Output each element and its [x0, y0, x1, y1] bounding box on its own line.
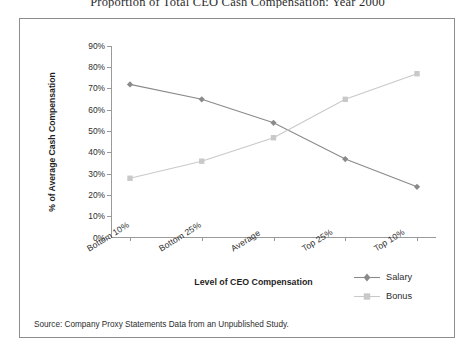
y-tick-label: 90%: [88, 41, 105, 52]
y-tick-label: 60%: [88, 105, 105, 116]
y-tick: 40%: [63, 147, 111, 158]
data-point-salary[interactable]: [127, 81, 133, 87]
data-point-salary[interactable]: [199, 96, 205, 102]
legend: Salary Bonus: [352, 268, 440, 306]
y-tick: 20%: [63, 190, 111, 201]
legend-swatch-bonus: [352, 287, 382, 306]
series-layer: [111, 46, 436, 238]
y-tick-label: 50%: [88, 126, 105, 137]
data-point-bonus[interactable]: [271, 135, 276, 140]
y-axis-title: % of Average Cash Compensation: [47, 58, 57, 226]
y-tick-label: 10%: [88, 211, 105, 222]
data-point-bonus[interactable]: [127, 176, 132, 181]
y-tick: 70%: [63, 83, 111, 94]
plot-area: 0%10%20%30%40%50%60%70%80%90% Bottom 10%…: [111, 46, 436, 238]
chart-title: Proportion of Total CEO Cash Compensatio…: [0, 0, 475, 8]
data-point-salary[interactable]: [342, 156, 348, 162]
y-tick: 80%: [63, 62, 111, 73]
data-point-salary[interactable]: [270, 120, 276, 126]
y-tick: 10%: [63, 211, 111, 222]
y-tick: 50%: [63, 126, 111, 137]
figure: Proportion of Total CEO Cash Compensatio…: [0, 0, 475, 357]
legend-label-salary: Salary: [386, 272, 412, 282]
y-tick-label: 40%: [88, 147, 105, 158]
series-line-bonus: [130, 74, 417, 179]
y-tick: 60%: [63, 105, 111, 116]
y-tick: 30%: [63, 169, 111, 180]
y-tick-label: 20%: [88, 190, 105, 201]
data-point-bonus[interactable]: [343, 97, 348, 102]
legend-item-salary[interactable]: Salary: [352, 268, 440, 287]
data-point-salary[interactable]: [414, 184, 420, 190]
y-tick-label: 30%: [88, 169, 105, 180]
data-point-bonus[interactable]: [414, 71, 419, 76]
data-point-bonus[interactable]: [199, 159, 204, 164]
source-note: Source: Company Proxy Statements Data fr…: [34, 320, 289, 329]
y-tick-label: 80%: [88, 62, 105, 73]
y-tick-label: 70%: [88, 83, 105, 94]
y-tick: 90%: [63, 41, 111, 52]
legend-label-bonus: Bonus: [386, 291, 412, 301]
legend-item-bonus[interactable]: Bonus: [352, 287, 440, 306]
legend-swatch-salary: [352, 268, 382, 287]
